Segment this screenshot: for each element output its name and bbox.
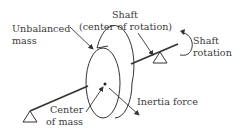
inertia-force-label: Inertia force <box>137 96 198 107</box>
unbalanced-mass-label-2: mass <box>12 35 37 46</box>
center-of-mass-label-1: Center <box>50 104 83 115</box>
shaft-rotation-label-2: rotation <box>193 47 232 58</box>
unbalanced-mass-label-1: Unbalanced <box>12 23 70 34</box>
shaft-rotation-label-1: Shaft <box>193 35 219 46</box>
disc-back <box>97 25 134 118</box>
disc-front <box>86 48 120 118</box>
shaft-label-1: Shaft <box>112 9 138 20</box>
shaft-label-2: (center of rotation) <box>79 21 172 32</box>
shaft-arrow <box>138 33 153 55</box>
shaft-rotation-icon <box>180 33 192 55</box>
left-support-icon <box>23 111 37 122</box>
center-of-mass-label-2: of mass <box>46 116 83 127</box>
center-of-mass-arrow <box>86 87 103 112</box>
center-of-mass-dot <box>104 83 107 86</box>
